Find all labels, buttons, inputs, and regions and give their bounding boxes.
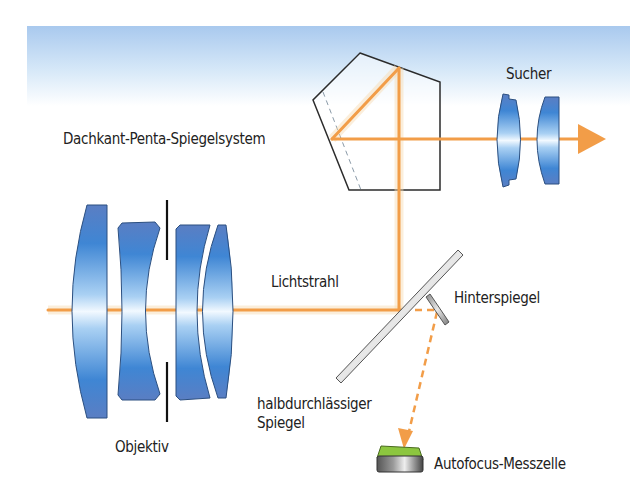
main-mirror-label-line1: halbdurchlässiger [257, 395, 372, 413]
beam-arrowhead-icon [578, 124, 606, 154]
pentaprism-label: Dachkant-Penta-Spiegelsystem [63, 130, 265, 148]
af-beam-dashed [403, 310, 437, 440]
secondary-mirror-label: Hinterspiegel [454, 289, 540, 307]
main-mirror-label-line2: Spiegel [257, 414, 305, 432]
af-beam-arrowhead-icon [398, 428, 413, 449]
af-sensor-label: Autofocus-Messzelle [434, 455, 566, 473]
viewfinder-label: Sucher [506, 65, 551, 83]
objective-label: Objektiv [115, 438, 169, 456]
autofocus-sensor [377, 446, 423, 472]
light-ray-label: Lichtstrahl [271, 273, 339, 291]
